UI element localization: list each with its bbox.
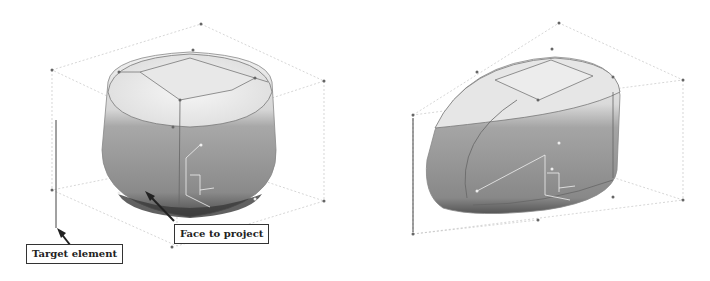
target-element-callout: Target element [26, 244, 123, 264]
right-panel [355, 0, 710, 281]
face-to-project-callout: Face to project [174, 224, 269, 244]
projected-wedge-render [355, 0, 710, 281]
left-panel: Target element Face to project [0, 0, 355, 281]
